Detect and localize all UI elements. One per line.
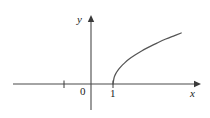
- function-curve: [113, 33, 181, 84]
- origin-label: 0: [80, 86, 86, 97]
- coordinate-plot: [0, 0, 210, 118]
- x-tick-label-one: 1: [110, 88, 116, 99]
- y-axis-arrow-icon: [88, 15, 94, 22]
- y-axis-label: y: [77, 14, 82, 25]
- x-axis-label: x: [190, 88, 195, 99]
- x-axis-arrow-icon: [194, 81, 201, 87]
- graph-figure: y x 0 1: [0, 0, 210, 118]
